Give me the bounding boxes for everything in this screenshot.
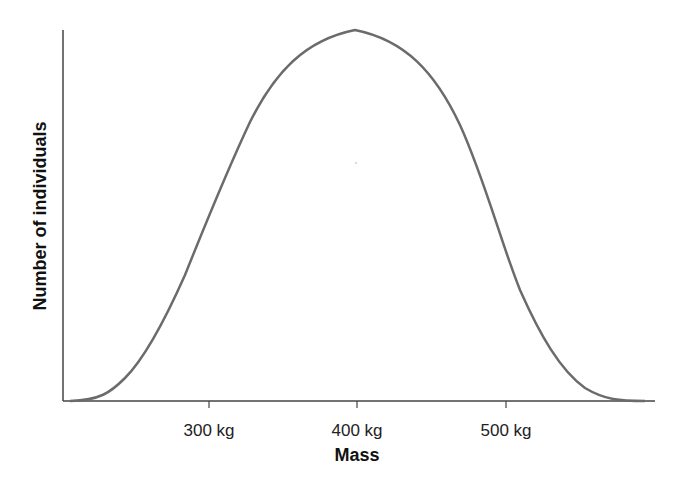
x-tick-label: 500 kg (480, 421, 531, 440)
distribution-curve (70, 30, 645, 401)
x-tick-label: 400 kg (331, 421, 382, 440)
stray-dot (355, 162, 357, 164)
x-axis-title: Mass (334, 445, 379, 465)
chart: 300 kg 400 kg 500 kg Mass Number of indi… (0, 0, 676, 493)
y-axis-title: Number of individuals (30, 121, 50, 310)
x-tick-label: 300 kg (183, 421, 234, 440)
